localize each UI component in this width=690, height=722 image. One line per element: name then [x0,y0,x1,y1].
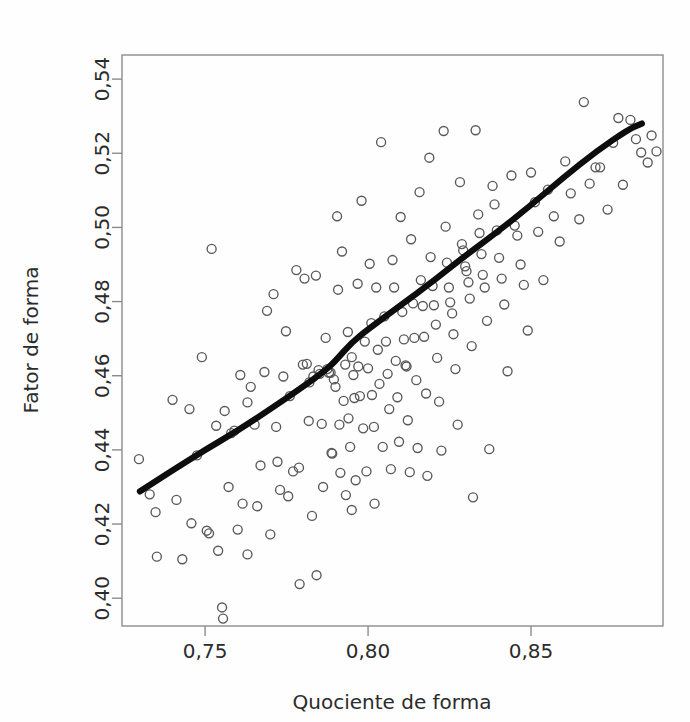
data-point [464,278,473,287]
data-point [433,353,442,362]
y-tick-label: 0,54 [90,57,114,102]
data-point [350,393,359,402]
data-point [172,495,181,504]
data-point [631,135,640,144]
data-point [585,179,594,188]
data-point [218,603,227,612]
data-point [134,455,143,464]
data-point [618,180,627,189]
data-point [423,471,432,480]
data-point [266,530,275,539]
data-point [284,492,293,501]
data-point [626,115,635,124]
data-point [435,397,444,406]
data-point [416,276,425,285]
data-point [475,228,484,237]
data-point [381,337,390,346]
data-point [220,406,229,415]
data-point [410,333,419,342]
data-point [490,200,499,209]
data-point [375,379,384,388]
y-tick-label: 0,52 [90,131,114,176]
data-point [151,508,160,517]
data-point [377,138,386,147]
data-point [272,422,281,431]
data-point [365,259,374,268]
y-axis-ticks: 0,400,420,440,460,480,500,520,54 [90,57,122,621]
data-point [453,420,462,429]
data-point [233,525,242,534]
data-point [260,368,269,377]
data-point [412,376,421,385]
data-point [637,148,646,157]
data-point [519,280,528,289]
data-point [579,98,588,107]
data-point [311,271,320,280]
data-point [339,396,348,405]
data-point [391,356,400,365]
data-point [238,499,247,508]
data-point [243,398,252,407]
y-axis-title: Fator de forma [19,267,43,414]
data-point [465,294,474,303]
data-point [478,270,487,279]
y-tick-label: 0,48 [90,279,114,324]
x-tick-label: 0,75 [183,639,228,663]
data-point [399,335,408,344]
data-point [346,442,355,451]
data-point [300,274,309,283]
data-point [205,529,214,538]
data-point [603,205,612,214]
data-point [485,445,494,454]
data-point [549,212,558,221]
data-point [437,446,446,455]
data-point [534,227,543,236]
data-point [187,519,196,528]
data-point [513,231,522,240]
data-point [319,482,328,491]
data-point [178,555,187,564]
data-point [341,491,350,500]
data-point [370,499,379,508]
data-point [292,266,301,275]
data-point [295,580,304,589]
data-point [614,114,623,123]
data-point [415,188,424,197]
data-point [488,181,497,190]
data-point [422,389,431,398]
data-point [395,437,404,446]
data-point [219,614,228,623]
data-point [448,309,457,318]
data-point [523,326,532,335]
data-point [388,256,397,265]
data-point [441,222,450,231]
data-point [308,511,317,520]
data-point [273,457,282,466]
trend-line [140,124,642,492]
data-point [439,127,448,136]
data-point [383,369,392,378]
data-point [393,393,402,402]
data-point [480,283,489,292]
data-point [500,300,509,309]
data-point [253,502,262,511]
data-point [349,370,358,379]
data-point [477,250,486,259]
plot-frame [122,55,663,626]
data-point [317,419,326,428]
data-point [561,157,570,166]
data-point [369,422,378,431]
data-point [256,461,265,470]
y-tick-label: 0,44 [90,428,114,473]
data-point [503,367,512,376]
data-point [185,405,194,414]
data-point [344,414,353,423]
data-point [403,416,412,425]
data-point [449,330,458,339]
data-point [643,158,652,167]
data-point [385,405,394,414]
data-point [304,416,313,425]
data-point [312,571,321,580]
data-point [407,235,416,244]
x-axis-title: Quociente de forma [293,690,492,714]
